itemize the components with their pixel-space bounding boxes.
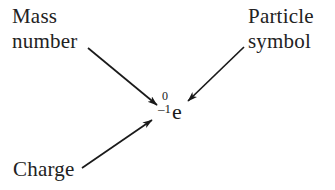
- arrow-mass-number-icon: [88, 48, 157, 105]
- annotation-arrows: [0, 0, 335, 190]
- arrow-charge-icon: [82, 120, 152, 168]
- arrow-particle-symbol-icon: [188, 47, 244, 101]
- beta-particle-notation-diagram: Mass number Particle symbol Charge 0 –1 …: [0, 0, 335, 190]
